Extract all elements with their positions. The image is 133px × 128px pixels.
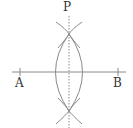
arc-bottom-b: [58, 98, 82, 124]
label-a: A: [15, 77, 24, 89]
arc-bottom-a: [56, 98, 80, 124]
bisector-diagram: P A B: [0, 0, 133, 128]
label-b: B: [113, 77, 122, 89]
label-p: P: [63, 1, 71, 13]
construction-figure: [0, 0, 133, 128]
